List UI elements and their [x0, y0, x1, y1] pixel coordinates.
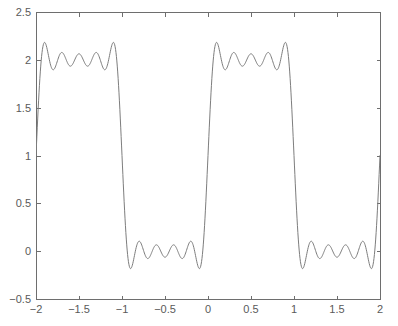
x-tick-label: 2 [377, 303, 383, 315]
x-tick-label: 1.5 [329, 303, 344, 315]
x-tick-label: 0 [205, 303, 211, 315]
x-tick-label: −2 [30, 303, 43, 315]
y-tick-label: 2 [25, 54, 31, 66]
y-tick-label: 2.5 [16, 6, 31, 18]
figure-background [0, 0, 398, 326]
y-tick-label: 0.5 [16, 197, 31, 209]
x-tick-label: 0.5 [243, 303, 258, 315]
x-axis-tick-labels: −2−1.5−1−0.500.511.52 [30, 303, 383, 315]
x-tick-label: −1 [116, 303, 129, 315]
y-tick-label: 0 [25, 245, 31, 257]
y-tick-label: 1 [25, 150, 31, 162]
figure-canvas: −2−1.5−1−0.500.511.52 −0.500.511.522.5 [0, 0, 398, 326]
y-tick-label: 1.5 [16, 102, 31, 114]
chart-plot: −2−1.5−1−0.500.511.52 −0.500.511.522.5 [0, 0, 398, 326]
x-tick-label: −0.5 [154, 303, 176, 315]
x-tick-label: 1 [291, 303, 297, 315]
y-tick-label: −0.5 [9, 293, 31, 305]
x-tick-label: −1.5 [68, 303, 90, 315]
